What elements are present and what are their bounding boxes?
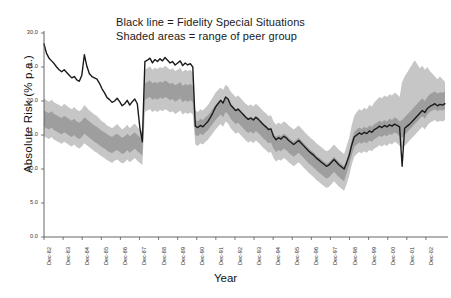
x-tick-label: Dec-94 bbox=[275, 247, 281, 265]
x-tick-label: Dec-83 bbox=[65, 247, 71, 265]
x-tick-label: Dec-96 bbox=[313, 247, 319, 265]
x-tick-label: Dec-98 bbox=[352, 247, 358, 265]
x-tick-label: Dec-99 bbox=[371, 247, 377, 265]
x-tick-label: Dec-93 bbox=[256, 247, 262, 265]
x-tick-label: Dec-84 bbox=[84, 247, 90, 265]
x-tick-label: Dec-02 bbox=[428, 247, 434, 265]
x-tick-label: Dec-95 bbox=[294, 247, 300, 265]
x-tick-label: Dec-00 bbox=[390, 247, 396, 265]
y-tick-label: 0.0 bbox=[16, 233, 38, 239]
chart-root: Black line = Fidelity Special Situations… bbox=[0, 0, 451, 298]
y-tick-label: 15.0 bbox=[16, 131, 38, 137]
y-tick-label: 5.0 bbox=[16, 199, 38, 205]
x-tick-label: Dec-90 bbox=[199, 247, 205, 265]
x-tick-marks bbox=[44, 237, 426, 240]
x-tick-label: Dec-82 bbox=[46, 247, 52, 265]
x-tick-label: Dec-85 bbox=[103, 247, 109, 265]
y-tick-label: 10.0 bbox=[16, 165, 38, 171]
x-tick-label: Dec-91 bbox=[218, 247, 224, 265]
x-tick-label: Dec-01 bbox=[409, 247, 415, 265]
y-tick-label: 20.0 bbox=[16, 97, 38, 103]
x-tick-label: Dec-92 bbox=[237, 247, 243, 265]
y-tick-label: 30.0 bbox=[16, 29, 38, 35]
x-tick-label: Dec-97 bbox=[332, 247, 338, 265]
x-tick-label: Dec-87 bbox=[141, 247, 147, 265]
y-tick-label: 25.0 bbox=[16, 63, 38, 69]
x-tick-label: Dec-89 bbox=[180, 247, 186, 265]
x-tick-label: Dec-86 bbox=[122, 247, 128, 265]
x-tick-label: Dec-88 bbox=[161, 247, 167, 265]
